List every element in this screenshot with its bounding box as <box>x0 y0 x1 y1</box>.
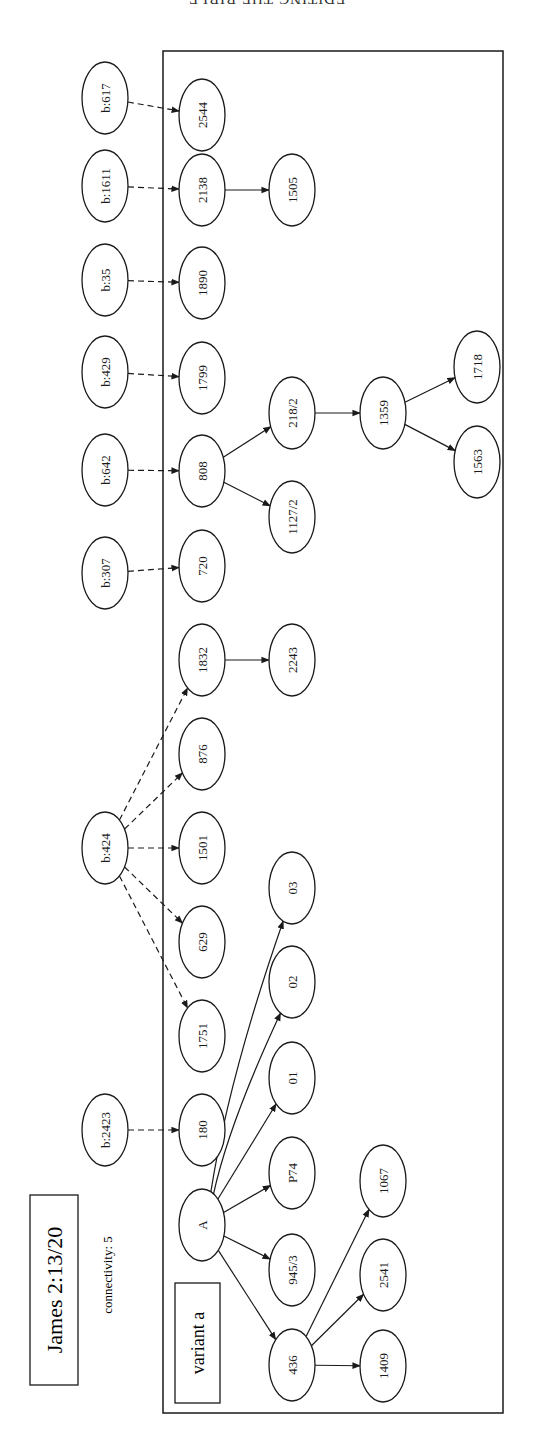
node-n1718: 1718 <box>454 331 500 403</box>
variant-label: variant a <box>188 1312 208 1374</box>
node-n2544: 2544 <box>179 79 225 151</box>
node-label: 1832 <box>195 647 210 673</box>
node-b617: b:617 <box>82 62 128 134</box>
node-label: b:1611 <box>98 168 113 204</box>
node-n629: 629 <box>179 906 225 978</box>
edge-b307-to-n720 <box>128 568 179 572</box>
nodes-layer: b:617b:1611b:35b:429b:642b:307b:424b:242… <box>82 62 500 1402</box>
node-n945: 945/3 <box>269 1234 315 1306</box>
node-label: 1563 <box>470 449 485 475</box>
node-n1751: 1751 <box>179 1000 225 1072</box>
node-n2243: 2243 <box>269 624 315 696</box>
node-label: 03 <box>285 882 300 895</box>
node-label: b:307 <box>98 558 113 588</box>
node-n1501: 1501 <box>179 812 225 884</box>
edge-b424-to-n876 <box>125 773 183 829</box>
title-box: James 2:13/20 <box>30 1195 78 1385</box>
node-n1409: 1409 <box>360 1330 406 1402</box>
diagram-title: James 2:13/20 <box>42 1227 67 1354</box>
node-b307: b:307 <box>82 537 128 609</box>
stemma-diagram: James 2:13/20 connectivity: 5 variant a … <box>0 0 533 1442</box>
node-label: 218/2 <box>285 398 300 428</box>
node-label: 945/3 <box>285 1255 300 1285</box>
node-b2423: b:2423 <box>82 1094 128 1166</box>
edge-b35-to-n1890 <box>128 281 179 283</box>
edge-b1611-to-n2138 <box>128 187 179 189</box>
node-n1127: 1127/2 <box>269 481 315 553</box>
node-n2138: 2138 <box>179 154 225 226</box>
node-label: A <box>195 1220 210 1230</box>
node-label: 1409 <box>376 1353 391 1379</box>
node-n1799: 1799 <box>179 342 225 414</box>
node-label: b:429 <box>98 357 113 387</box>
edge-nA-to-nP74 <box>224 1185 271 1212</box>
node-n436: 436 <box>269 1329 315 1401</box>
edge-n1359-to-n1563 <box>405 424 455 450</box>
node-n1505: 1505 <box>269 154 315 226</box>
node-n808: 808 <box>179 435 225 507</box>
node-label: 629 <box>195 932 210 952</box>
node-n1563: 1563 <box>454 426 500 498</box>
edge-b642-to-n808 <box>128 470 179 471</box>
edge-n808-to-n1127 <box>224 482 270 506</box>
node-n180: 180 <box>179 1094 225 1166</box>
node-label: 2541 <box>376 1262 391 1288</box>
node-label: 808 <box>195 461 210 481</box>
node-label: 1751 <box>195 1023 210 1049</box>
node-label: 876 <box>195 744 210 764</box>
edge-n808-to-n218 <box>223 427 270 458</box>
node-b429: b:429 <box>82 336 128 408</box>
node-label: 2138 <box>195 177 210 203</box>
node-label: 1505 <box>285 177 300 203</box>
edge-nA-to-n436 <box>218 1250 275 1339</box>
edge-n1359-to-n1718 <box>405 378 455 403</box>
node-label: 02 <box>285 976 300 989</box>
node-label: 2544 <box>195 102 210 129</box>
node-label: 1890 <box>195 270 210 296</box>
node-n1067: 1067 <box>360 1145 406 1217</box>
node-label: 01 <box>285 1072 300 1085</box>
node-n02: 02 <box>269 946 315 1018</box>
node-label: b:642 <box>98 455 113 485</box>
node-n720: 720 <box>179 530 225 602</box>
node-nP74: P74 <box>269 1137 315 1209</box>
node-label: b:424 <box>98 833 113 863</box>
node-label: 1067 <box>376 1168 391 1195</box>
node-label: b:35 <box>98 268 113 291</box>
node-n1359: 1359 <box>360 377 406 449</box>
node-label: 180 <box>195 1120 210 1140</box>
node-label: 436 <box>285 1355 300 1375</box>
node-n03: 03 <box>269 852 315 924</box>
node-b1611: b:1611 <box>82 150 128 222</box>
node-label: 720 <box>195 556 210 576</box>
node-nA: A <box>179 1189 225 1261</box>
edge-b429-to-n1799 <box>128 373 179 376</box>
node-n1832: 1832 <box>179 624 225 696</box>
edge-b424-to-n629 <box>125 867 183 923</box>
node-n1890: 1890 <box>179 247 225 319</box>
node-label: 1799 <box>195 365 210 391</box>
node-label: 1127/2 <box>285 499 300 535</box>
node-b424: b:424 <box>82 812 128 884</box>
node-b642: b:642 <box>82 434 128 506</box>
node-n2541: 2541 <box>360 1239 406 1311</box>
node-label: 1501 <box>195 835 210 861</box>
edge-b617-to-n2544 <box>128 102 179 111</box>
node-b35: b:35 <box>82 244 128 316</box>
node-label: 1359 <box>376 400 391 426</box>
node-label: 2243 <box>285 647 300 673</box>
edge-nA-to-n01 <box>218 1104 276 1199</box>
node-label: P74 <box>285 1162 300 1183</box>
edge-n436-to-n2541 <box>311 1294 363 1346</box>
variant-label-box: variant a <box>175 1283 220 1403</box>
node-n218: 218/2 <box>269 377 315 449</box>
node-label: 1718 <box>470 354 485 380</box>
node-n01: 01 <box>269 1042 315 1114</box>
edge-nA-to-n945 <box>224 1236 270 1259</box>
node-n876: 876 <box>179 718 225 790</box>
node-label: b:2423 <box>98 1112 113 1148</box>
connectivity-label: connectivity: 5 <box>100 1236 115 1314</box>
node-label: b:617 <box>98 83 113 113</box>
